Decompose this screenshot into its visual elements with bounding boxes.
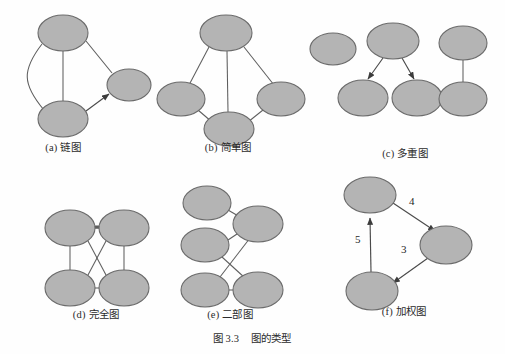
node-e5 <box>233 272 283 308</box>
edge-b1-b3 <box>244 47 274 85</box>
panel-f-graph <box>344 177 472 310</box>
edge-f3-f1-arrow <box>370 218 371 272</box>
node-d4 <box>99 270 149 306</box>
panel-e-graph <box>181 186 283 308</box>
edge-weight-3: 3 <box>401 243 407 255</box>
node-b2 <box>157 82 205 116</box>
node-a2 <box>38 101 88 137</box>
panel-caption-d: (d) 完全图 <box>73 306 119 321</box>
node-c6 <box>439 82 487 116</box>
node-e4 <box>233 206 283 242</box>
node-c3 <box>338 80 388 116</box>
node-d1 <box>45 210 95 246</box>
panel-b-graph <box>157 15 305 146</box>
panel-caption-c: (c) 多重图 <box>382 145 428 160</box>
node-c2 <box>367 23 419 59</box>
edge-a1-a2-curved <box>27 44 44 110</box>
edge-f1-f2-arrow <box>393 203 435 231</box>
edge-weight-4: 4 <box>409 195 415 207</box>
edge-a1-a3 <box>86 41 112 73</box>
node-b1 <box>200 15 252 51</box>
panel-caption-b: (b) 简单图 <box>205 139 251 154</box>
panel-a-graph <box>27 15 151 137</box>
node-e3 <box>181 273 229 307</box>
panel-d-graph <box>45 210 149 306</box>
node-c4 <box>392 80 442 116</box>
node-c1-isolated <box>310 33 356 65</box>
node-e1 <box>183 186 231 220</box>
node-c5 <box>439 26 487 60</box>
edge-weight-5: 5 <box>355 233 361 245</box>
node-e2 <box>181 228 229 262</box>
node-a3 <box>107 69 151 101</box>
node-f1 <box>344 177 396 213</box>
edge-c2-c4-arrow <box>402 58 414 79</box>
edge-b1-b2 <box>189 47 209 85</box>
edge-b1-b4 <box>227 51 228 112</box>
edge-c2-c3-arrow <box>368 58 383 79</box>
node-a1 <box>38 15 88 51</box>
node-d2 <box>99 210 149 246</box>
node-b3 <box>257 82 305 116</box>
panel-caption-e: (e) 二部图 <box>207 306 253 321</box>
edge-a2-a3-arrow <box>86 94 109 111</box>
graph-drawing-layer <box>0 0 505 354</box>
panel-caption-a: (a) 链图 <box>45 139 80 154</box>
edge-f2-f3-arrow <box>393 258 428 283</box>
figure-container: 4 5 3 (a) 链图 (b) 简单图 (c) 多重图 (d) 完全图 (e)… <box>0 0 505 354</box>
figure-caption: 图 3.3 图的类型 <box>213 330 292 345</box>
panel-c-graph <box>310 23 487 116</box>
panel-caption-f: (f) 加权图 <box>382 303 427 318</box>
node-d3 <box>45 270 95 306</box>
node-f2 <box>420 226 472 264</box>
